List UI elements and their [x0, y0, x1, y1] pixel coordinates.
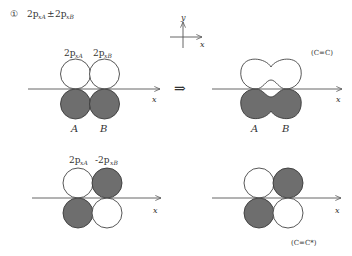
label-2pxA: 2p	[64, 48, 76, 58]
term2-sub: xB	[66, 13, 74, 20]
term1-sub: xA	[38, 13, 46, 20]
atom-a-label: A	[70, 123, 78, 134]
panel-bonding-pi: (C=C) x A B	[212, 49, 342, 134]
coordinate-reference-icon: y x	[170, 13, 205, 49]
lobe-a-upper	[63, 168, 93, 198]
svg-text:xA: xA	[75, 52, 83, 59]
lobe-b-upper	[273, 168, 303, 198]
svg-text:xB: xB	[104, 52, 112, 59]
index-symbol: ①	[10, 9, 18, 19]
implies-arrow: ⇒	[174, 80, 186, 96]
lobe-b-upper	[90, 59, 120, 89]
pi-bonding-lower-lobe	[241, 89, 302, 119]
label-2pxB: 2p	[93, 48, 105, 58]
pi-bonding-upper-lobe	[241, 59, 302, 89]
term1-base: 2p	[27, 9, 39, 19]
axis-x-label: x	[336, 95, 341, 104]
label-neg-2pxB: -2p	[95, 155, 110, 165]
axis-x-label: x	[335, 206, 340, 215]
panel-bonding-separate: 2p xA 2p xB x A B	[28, 48, 160, 134]
lobe-a-lower	[63, 198, 93, 228]
lobe-b-lower	[90, 89, 120, 119]
bond-tag: (C=C*)	[291, 239, 317, 247]
panel-antibonding-separate: 2p xA -2p xB x	[32, 155, 161, 228]
atom-b-label: B	[99, 123, 107, 134]
lobe-b-lower	[92, 198, 122, 228]
axis-x-label: x	[152, 95, 157, 104]
atom-b-label: B	[281, 123, 289, 134]
header-formula: ① 2p xA ± 2p xB	[10, 9, 74, 20]
y-axis-label: y	[180, 13, 186, 22]
atom-a-label: A	[250, 123, 258, 134]
lobe-b-upper	[92, 168, 122, 198]
svg-text:xA: xA	[80, 159, 88, 166]
svg-text:xB: xB	[110, 159, 118, 166]
operator: ±	[47, 9, 55, 19]
lobe-a-upper	[61, 59, 91, 89]
lobe-a-lower	[61, 89, 91, 119]
x-axis-label: x	[200, 40, 205, 49]
lobe-a-upper	[244, 168, 274, 198]
term2-base: 2p	[55, 9, 67, 19]
lobe-a-lower	[244, 198, 274, 228]
axis-x-label: x	[153, 206, 158, 215]
lobe-b-lower	[273, 198, 303, 228]
orbital-diagram: ① 2p xA ± 2p xB y x 2p xA 2p xB x A B ⇒ …	[0, 0, 352, 256]
bond-tag: (C=C)	[311, 49, 333, 57]
panel-antibonding-pi: x (C=C*)	[212, 168, 341, 247]
label-2pxA: 2p	[69, 155, 81, 165]
